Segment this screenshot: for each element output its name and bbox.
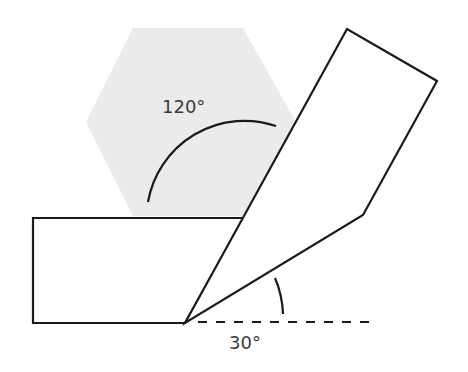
diagram-stage: 120° 30° xyxy=(0,0,468,372)
angle-label-120: 120° xyxy=(162,96,205,117)
diagram-canvas: 120° 30° xyxy=(0,0,468,372)
angle-arc-30 xyxy=(275,278,283,314)
angle-label-30: 30° xyxy=(229,332,261,353)
